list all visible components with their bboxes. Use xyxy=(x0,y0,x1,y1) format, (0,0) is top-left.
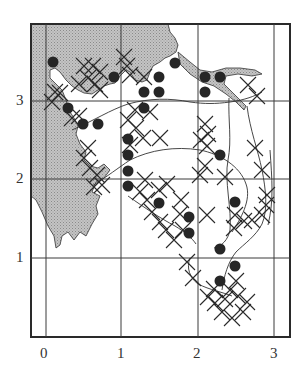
dot-marker xyxy=(215,244,226,255)
dot-marker xyxy=(63,103,74,114)
cross-marker xyxy=(152,130,168,146)
dot-marker xyxy=(215,150,226,161)
dot-marker xyxy=(184,228,195,239)
dot-marker xyxy=(139,87,150,98)
dot-marker xyxy=(78,119,89,130)
dot-marker xyxy=(123,181,134,192)
dot-marker xyxy=(154,72,165,83)
dot-marker xyxy=(184,212,195,223)
x-tick-3: 3 xyxy=(270,346,278,361)
dot-marker xyxy=(215,72,226,83)
y-tick-2: 2 xyxy=(16,171,24,186)
y-tick-1: 1 xyxy=(16,250,24,265)
dot-marker xyxy=(93,119,104,130)
dot-marker xyxy=(230,197,241,208)
cross-marker xyxy=(137,172,153,188)
dot-marker xyxy=(139,103,150,114)
cross-marker xyxy=(173,192,189,208)
x-tick-0: 0 xyxy=(40,346,48,361)
dot-marker xyxy=(200,72,211,83)
dot-marker xyxy=(109,72,120,83)
cross-marker xyxy=(200,289,216,305)
x-tick-2: 2 xyxy=(193,346,201,361)
cross-marker xyxy=(214,304,230,320)
cross-marker xyxy=(199,207,215,223)
cross-marker xyxy=(158,222,174,238)
cross-marker xyxy=(217,169,233,185)
cross-marker xyxy=(185,270,201,286)
dot-marker xyxy=(215,276,226,287)
cross-marker xyxy=(197,158,213,174)
cross-marker xyxy=(132,184,148,200)
cross-marker xyxy=(197,116,213,132)
dot-marker xyxy=(170,58,181,69)
cross-marker xyxy=(249,88,265,104)
dot-marker xyxy=(123,150,134,161)
cross-marker xyxy=(139,192,155,208)
dot-marker xyxy=(123,134,134,145)
dot-marker xyxy=(48,57,59,68)
dot-marker xyxy=(200,87,211,98)
cross-marker xyxy=(166,232,182,248)
cross-marker xyxy=(227,207,243,223)
cross-marker xyxy=(152,214,168,230)
x-tick-1: 1 xyxy=(117,346,125,361)
cross-marker xyxy=(128,120,144,136)
dot-marker xyxy=(123,166,134,177)
cross-marker xyxy=(179,254,195,270)
cross-marker xyxy=(159,176,175,192)
cross-marker xyxy=(151,182,167,198)
dot-marker xyxy=(230,261,241,272)
dot-marker xyxy=(154,198,165,209)
cross-marker xyxy=(254,162,270,178)
cross-marker xyxy=(230,288,246,304)
distribution-map xyxy=(0,0,305,385)
cross-marker xyxy=(192,167,208,183)
cross-marker xyxy=(240,77,256,93)
cross-marker xyxy=(226,220,242,236)
cross-marker xyxy=(228,273,244,289)
dot-marker xyxy=(154,87,165,98)
y-tick-3: 3 xyxy=(16,93,24,108)
